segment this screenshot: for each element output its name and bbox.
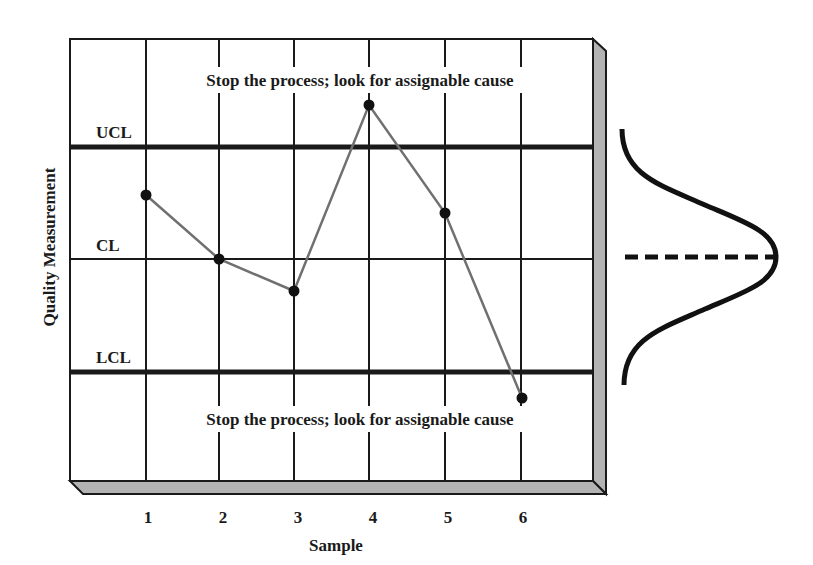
- lcl-label: LCL: [96, 348, 131, 367]
- x-tick: 6: [519, 508, 528, 527]
- cl-label: CL: [96, 236, 120, 255]
- annotation-top: Stop the process; look for assignable ca…: [206, 71, 514, 90]
- ucl-label: UCL: [96, 123, 132, 142]
- data-point-6: [517, 393, 528, 404]
- data-point-1: [141, 190, 152, 201]
- x-axis-title: Sample: [309, 536, 363, 555]
- y-axis-title: Quality Measurement: [40, 167, 59, 326]
- data-point-4: [364, 100, 375, 111]
- x-tick: 2: [219, 508, 228, 527]
- data-point-5: [440, 208, 451, 219]
- data-point-3: [289, 286, 300, 297]
- annotation-bottom: Stop the process; look for assignable ca…: [206, 410, 514, 429]
- data-point-2: [214, 254, 225, 265]
- chart-frame-bottom-shadow: [70, 481, 606, 494]
- x-tick: 5: [444, 508, 453, 527]
- chart-frame-side-shadow: [593, 39, 606, 494]
- x-tick: 3: [294, 508, 303, 527]
- x-tick-labels: 1 2 3 4 5 6: [144, 508, 528, 527]
- control-chart: UCL CL LCL Stop the process; look for as…: [0, 0, 813, 565]
- x-tick: 1: [144, 508, 153, 527]
- x-tick: 4: [369, 508, 378, 527]
